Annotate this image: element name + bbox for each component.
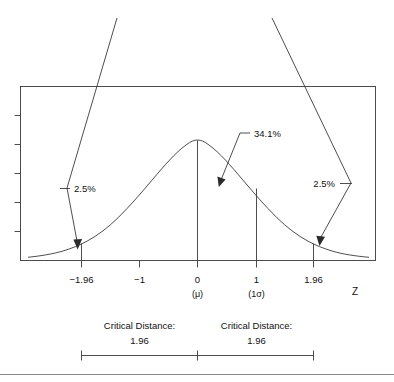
right-tail-leader bbox=[272, 18, 352, 246]
critical-distance-left-title: Critical Distance: bbox=[104, 320, 175, 331]
critical-distance-bracket bbox=[82, 351, 314, 361]
one-sigma-arrowhead bbox=[217, 176, 225, 187]
critical-distance-right-value: 1.96 bbox=[247, 335, 266, 346]
xtick-sublabel-1sigma: (1σ) bbox=[248, 289, 265, 299]
right-tail-arrowhead bbox=[316, 236, 325, 246]
xtick-label-neg196: −1.96 bbox=[69, 274, 93, 285]
xtick-label-pos196: 1.96 bbox=[304, 274, 323, 285]
one-sigma-percent-label: 34.1% bbox=[254, 128, 281, 139]
xtick-label-neg1: −1 bbox=[134, 274, 145, 285]
left-tail-leader bbox=[60, 18, 117, 250]
critical-distance-right-title: Critical Distance: bbox=[221, 320, 292, 331]
left-axis-ticks bbox=[15, 116, 21, 232]
normal-distribution-figure: 2.5% 2.5% 34.1% −1.96 −1 0 1 1.96 (μ) (1… bbox=[0, 0, 394, 382]
xtick-label-0: 0 bbox=[195, 274, 200, 285]
curve-vertical-markers bbox=[82, 141, 314, 261]
right-tail-percent-label: 2.5% bbox=[313, 178, 335, 189]
critical-distance-left-value: 1.96 bbox=[130, 335, 149, 346]
figure-canvas: 2.5% 2.5% 34.1% −1.96 −1 0 1 1.96 (μ) (1… bbox=[0, 0, 394, 382]
one-sigma-leader bbox=[217, 133, 250, 187]
xtick-sublabel-mu: (μ) bbox=[192, 289, 203, 299]
left-tail-percent-label: 2.5% bbox=[74, 183, 96, 194]
x-axis-title: Z bbox=[352, 286, 358, 297]
xtick-label-1: 1 bbox=[254, 274, 259, 285]
x-axis-ticks bbox=[82, 261, 314, 268]
